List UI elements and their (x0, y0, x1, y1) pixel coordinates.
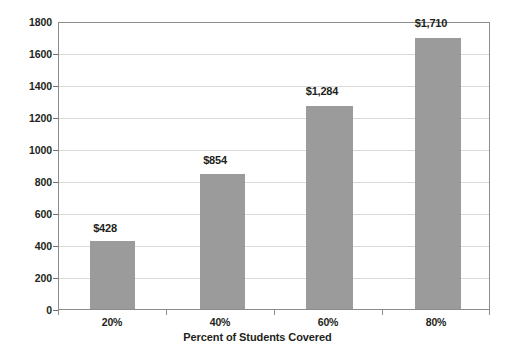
y-tick-label-1000: 1000 (8, 145, 52, 156)
x-axis-tick-3 (382, 310, 383, 315)
y-tick-label-200: 200 (8, 273, 52, 284)
bar-40-percent (200, 174, 245, 309)
bar-20-percent (90, 241, 135, 309)
x-axis-tick-1 (166, 310, 167, 315)
bar-value-label-80: $1,710 (393, 17, 469, 29)
y-tick-label-1600: 1600 (8, 49, 52, 60)
x-tick-label-60: 60% (288, 316, 368, 328)
y-tick-label-400: 400 (8, 241, 52, 252)
bar-value-label-60: $1,284 (284, 85, 360, 97)
y-tick-label-1400: 1400 (8, 81, 52, 92)
x-axis-title: Percent of Students Covered (0, 331, 515, 343)
x-tick-label-20: 20% (72, 316, 152, 328)
bar-value-label-40: $854 (177, 154, 253, 166)
x-axis-tick-2 (274, 310, 275, 315)
plot-area (58, 22, 490, 310)
y-tick-label-600: 600 (8, 209, 52, 220)
y-tick-label-1800: 1800 (8, 17, 52, 28)
bar-60-percent (306, 106, 353, 309)
x-axis-tick-4 (489, 310, 490, 315)
y-tick-label-800: 800 (8, 177, 52, 188)
bar-value-label-20: $428 (67, 222, 143, 234)
x-axis-tick-0 (58, 310, 59, 315)
y-tick-label-1200: 1200 (8, 113, 52, 124)
bar-80-percent (415, 38, 461, 309)
x-tick-label-40: 40% (180, 316, 260, 328)
bar-chart: 1800 1600 1400 1200 1000 800 600 400 200… (0, 0, 515, 355)
y-tick-label-0: 0 (8, 305, 52, 316)
x-tick-label-80: 80% (396, 316, 476, 328)
